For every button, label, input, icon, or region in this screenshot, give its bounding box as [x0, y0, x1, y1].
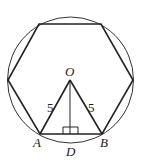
label-B: B	[100, 135, 108, 150]
label-OA-length: 5	[47, 100, 54, 115]
label-D: D	[65, 144, 76, 159]
label-OB-length: 5	[88, 100, 95, 115]
segment-OB	[70, 80, 102, 134]
segment-OA	[40, 80, 70, 134]
label-A: A	[32, 135, 41, 150]
label-O: O	[65, 64, 75, 79]
hexagon-diagram: O 5 5 A B D	[0, 0, 142, 166]
